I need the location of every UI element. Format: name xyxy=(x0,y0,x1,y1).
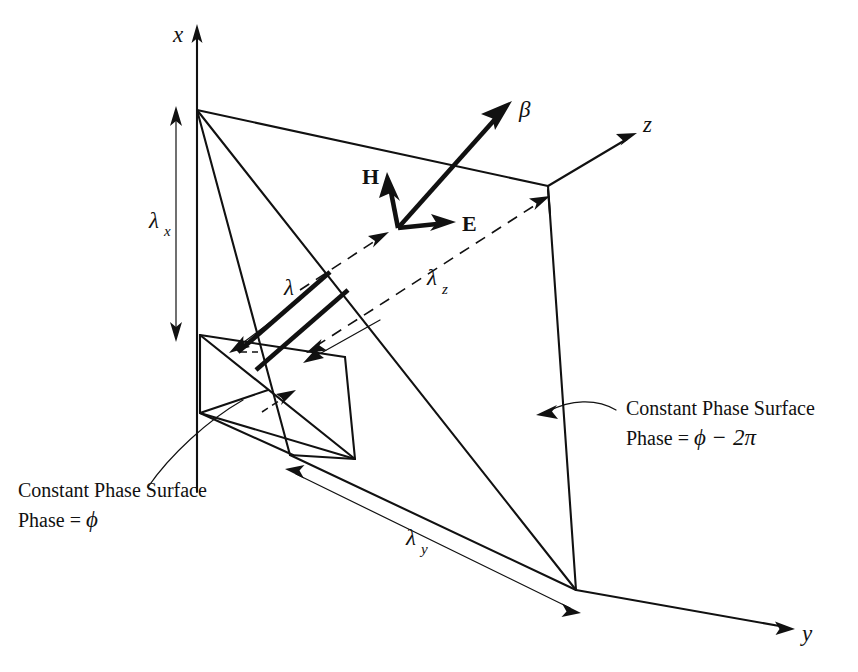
lambda-y-line xyxy=(296,474,570,608)
x-axis xyxy=(192,24,203,492)
beta-vector-arrowhead xyxy=(481,101,512,130)
h-vector-label: H xyxy=(362,164,379,189)
far-plane-annotation: Constant Phase Surface Phase = ϕ − 2π xyxy=(626,397,815,450)
y-axis-label: y xyxy=(800,621,813,646)
far-annotation-line1: Constant Phase Surface xyxy=(626,397,815,419)
lambda-z-base: λ xyxy=(426,265,437,290)
wave-diagram-svg: x z y β H E λ x λ y λ z λ xyxy=(0,0,858,672)
far-plane-bottom-edge xyxy=(290,455,576,590)
lambda-y-label: λ y xyxy=(405,525,428,557)
near-plane-annotation: Constant Phase Surface Phase = ϕ xyxy=(18,479,207,532)
near-annotation-prefix: Phase = xyxy=(18,509,86,531)
h-vector-arrowhead xyxy=(379,172,400,201)
field-vector-group xyxy=(379,101,512,231)
lambda-y-subscript: y xyxy=(419,541,428,557)
z-axis xyxy=(548,133,637,186)
propagation-dashed-ray xyxy=(300,232,389,290)
near-plane-bottom-edge xyxy=(200,413,355,459)
far-annotation-arrowhead xyxy=(536,405,558,419)
x-axis-label: x xyxy=(172,22,184,47)
y-axis xyxy=(576,590,795,635)
near-annotation-value: ϕ xyxy=(86,507,98,532)
far-annotation-prefix: Phase = xyxy=(626,427,694,449)
y-axis-arrowhead xyxy=(775,622,795,636)
lambda-z-subscript: z xyxy=(441,281,448,297)
lambda-x-subscript: x xyxy=(163,223,171,239)
propagation-dash-arrowhead xyxy=(368,232,389,248)
far-plane-right-edge xyxy=(548,186,576,590)
lambda-z-plane-tick xyxy=(548,190,550,214)
lambda-x-dimension xyxy=(170,106,182,342)
z-axis-line xyxy=(548,139,627,186)
far-annotation-value: ϕ − 2π xyxy=(694,425,757,450)
figure-canvas: x z y β H E λ x λ y λ z λ xyxy=(0,0,858,672)
annotation-leaders xyxy=(148,400,616,487)
lambda-y-arrowhead-right xyxy=(562,604,582,618)
lambda-y-base: λ xyxy=(405,525,416,550)
label-group: x z y β H E λ x λ y λ z λ xyxy=(18,22,815,646)
near-annotation-line1: Constant Phase Surface xyxy=(18,479,207,501)
near-annotation-leader-curve xyxy=(148,400,243,487)
lambda-z-label: λ z xyxy=(426,265,448,297)
lambda-x-label: λ x xyxy=(148,208,171,239)
near-plane-inner-fold xyxy=(200,390,268,413)
lambda-leader-line-2 xyxy=(314,320,380,357)
far-annotation-line2: Phase = ϕ − 2π xyxy=(626,425,757,450)
beta-vector-label: β xyxy=(518,97,531,122)
e-vector-label: E xyxy=(462,211,477,236)
z-axis-label: z xyxy=(642,112,652,137)
propagation-dash-line xyxy=(300,239,378,290)
near-annotation-line2: Phase = ϕ xyxy=(18,507,98,532)
lambda-y-arrowhead-left xyxy=(285,465,305,479)
y-axis-line xyxy=(576,590,785,627)
lambda-bold-bar-lower xyxy=(256,290,348,370)
near-plane-right-edge xyxy=(345,357,355,459)
lambda-label: λ xyxy=(283,275,294,300)
lambda-x-base: λ xyxy=(148,208,159,233)
far-annotation-leader-curve xyxy=(549,402,616,411)
